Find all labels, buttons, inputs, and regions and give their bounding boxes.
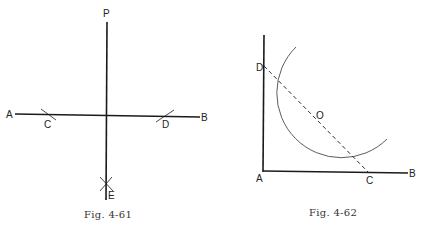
label-b: B	[201, 112, 208, 123]
line-ad	[263, 35, 264, 172]
caption-fig-4-62: Fig. 4-62	[309, 207, 357, 218]
caption-fig-4-61: Fig. 4-61	[84, 209, 132, 220]
line-ab	[15, 114, 200, 117]
label-a: A	[6, 109, 13, 120]
label-d: D	[256, 62, 263, 73]
label-e: E	[108, 190, 115, 201]
label-b: B	[409, 168, 416, 179]
label-a: A	[256, 173, 263, 184]
geometry-figures: P A B C D E Fig. 4-61 D O A C B Fig. 4-6…	[0, 0, 424, 228]
label-p: P	[103, 8, 110, 19]
label-o: O	[316, 110, 324, 121]
label-c: C	[44, 119, 51, 130]
circle-arc	[277, 47, 387, 158]
line-ab	[263, 171, 408, 173]
figure-4-62: D O A C B Fig. 4-62	[256, 35, 416, 218]
perpendicular-line-pe	[106, 22, 107, 200]
figure-4-61: P A B C D E Fig. 4-61	[6, 8, 208, 220]
label-c: C	[366, 175, 373, 186]
label-d: D	[162, 119, 169, 130]
